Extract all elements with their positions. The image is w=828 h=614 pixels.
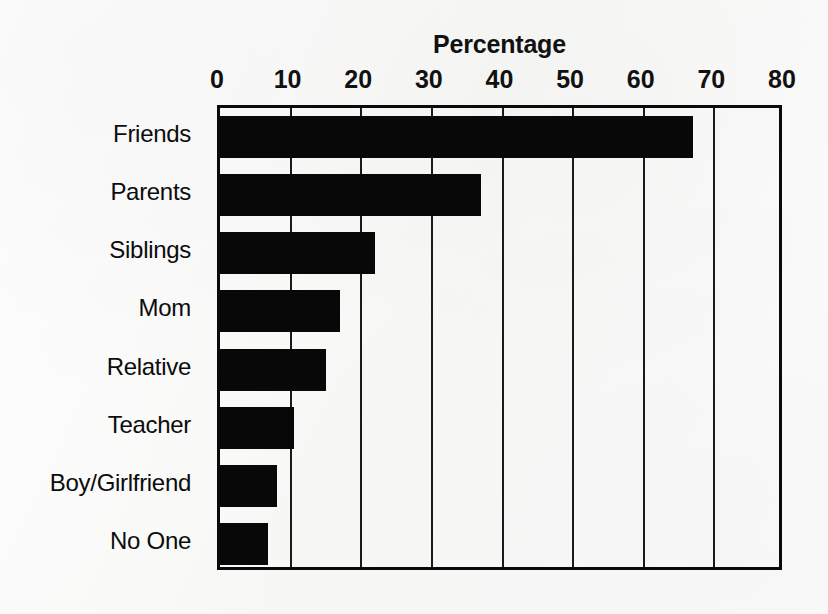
- bar-relative: [220, 349, 326, 391]
- x-axis-tick-labels: 01020304050607080: [0, 64, 828, 98]
- y-category-label-mom: Mom: [0, 292, 205, 324]
- y-category-label-no-one: No One: [0, 525, 205, 557]
- bar-teacher: [220, 407, 294, 449]
- y-category-label-relative: Relative: [0, 351, 205, 383]
- x-tick-label-10: 10: [274, 64, 302, 94]
- x-tick-label-60: 60: [627, 64, 655, 94]
- y-category-label-boy-girlfriend: Boy/Girlfriend: [0, 467, 205, 499]
- x-tick-label-80: 80: [768, 64, 796, 94]
- x-tick-label-70: 70: [697, 64, 725, 94]
- bar-mom: [220, 290, 340, 332]
- x-tick-label-20: 20: [344, 64, 372, 94]
- x-tick-label-30: 30: [415, 64, 443, 94]
- x-tick-label-40: 40: [486, 64, 514, 94]
- bars-layer: [220, 108, 779, 567]
- bar-friends: [220, 116, 693, 158]
- bar-no-one: [220, 523, 268, 565]
- bar-chart-figure: Percentage 01020304050607080 FriendsPare…: [0, 0, 828, 614]
- chart-title: Percentage: [217, 30, 782, 59]
- bar-parents: [220, 174, 481, 216]
- bar-siblings: [220, 232, 375, 274]
- x-tick-label-50: 50: [556, 64, 584, 94]
- y-category-label-teacher: Teacher: [0, 409, 205, 441]
- bar-boy-girlfriend: [220, 465, 277, 507]
- y-category-label-parents: Parents: [0, 176, 205, 208]
- y-category-label-friends: Friends: [0, 118, 205, 150]
- y-category-label-siblings: Siblings: [0, 234, 205, 266]
- plot-area: [217, 105, 782, 570]
- x-tick-label-0: 0: [210, 64, 224, 94]
- y-axis-category-labels: FriendsParentsSiblingsMomRelativeTeacher…: [0, 105, 205, 570]
